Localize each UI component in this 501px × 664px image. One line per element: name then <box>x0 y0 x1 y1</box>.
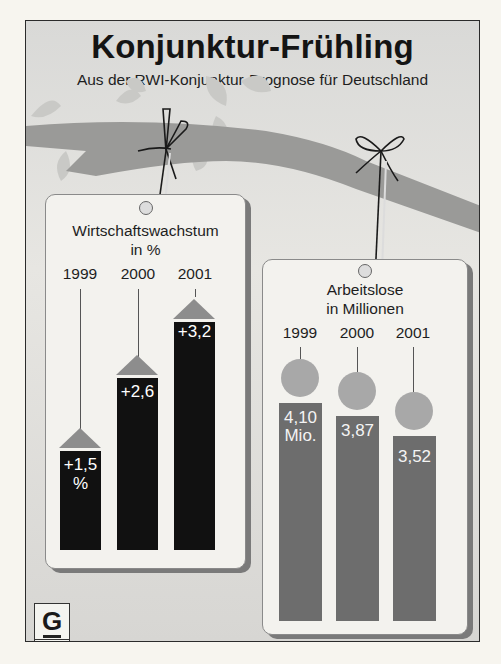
arrow-up-icon <box>59 428 101 448</box>
growth-bar-2000: +2,6 <box>117 378 158 550</box>
graphic-number: 6170 <box>35 639 69 642</box>
growth-value-2001: +3,2 <box>174 322 215 341</box>
infographic-frame: Konjunktur-Frühling Aus der RWI-Konjunkt… <box>25 20 480 642</box>
person-head-icon <box>281 359 319 397</box>
growth-unit: % <box>60 474 101 493</box>
growth-year-2000: 2000 <box>113 265 163 283</box>
unemployment-value-1999: 4,10 <box>279 409 322 427</box>
growth-title-line2: in % <box>46 240 245 259</box>
arrow-up-icon <box>116 355 158 375</box>
unemployment-year-1999: 1999 <box>275 324 325 342</box>
growth-year-1999: 1999 <box>55 265 105 283</box>
unemployment-bar-2000: 3,87 <box>336 416 379 621</box>
unemployment-title-line2: in Millionen <box>263 299 467 318</box>
tick-2000 <box>357 347 358 372</box>
growth-bar-1999: +1,5 % <box>60 451 101 550</box>
person-head-icon <box>338 372 376 410</box>
unemployment-value-2001: 3,52 <box>393 448 436 466</box>
tick-1999 <box>300 347 301 359</box>
unemployment-title-line1: Arbeitslose <box>263 280 467 299</box>
growth-value-1999: +1,5 <box>60 455 101 474</box>
person-head-icon <box>395 392 433 430</box>
growth-value-2000: +2,6 <box>117 382 158 401</box>
tick-2001 <box>413 347 414 392</box>
tick-2001 <box>195 289 196 297</box>
growth-year-2001: 2001 <box>170 265 220 283</box>
globus-logo: G 6170 <box>34 603 70 642</box>
unemployment-bar-2001: 3,52 <box>393 436 436 621</box>
tick-1999 <box>80 289 81 431</box>
unemployment-value-2000: 3,87 <box>336 422 379 440</box>
copyright-credit: © Globus <box>72 641 134 642</box>
unemployment-unit: Mio. <box>279 427 322 445</box>
arrow-up-icon <box>173 299 215 319</box>
growth-bar-2001: +3,2 <box>174 322 215 550</box>
growth-title-line1: Wirtschaftswachstum <box>46 221 245 240</box>
globus-g-icon: G <box>35 606 69 636</box>
unemployment-card: Arbeitslose in Millionen 1999 2000 2001 … <box>262 259 468 635</box>
unemployment-year-2000: 2000 <box>332 324 382 342</box>
card-hole-icon <box>358 264 372 278</box>
card-hole-icon <box>139 201 153 215</box>
unemployment-bar-1999: 4,10 Mio. <box>279 403 322 621</box>
logo-base-icon <box>43 635 61 638</box>
growth-card: Wirtschaftswachstum in % 1999 2000 2001 … <box>45 194 246 569</box>
tick-2000 <box>138 289 139 364</box>
unemployment-year-2001: 2001 <box>388 324 438 342</box>
